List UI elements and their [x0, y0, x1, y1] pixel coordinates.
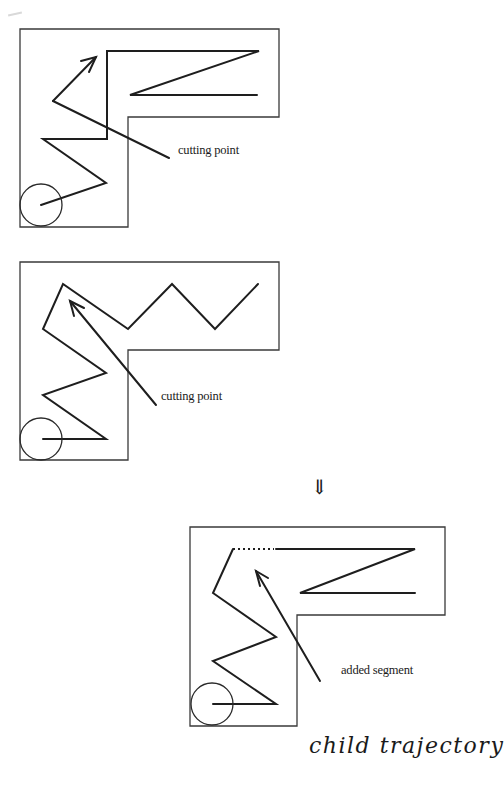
trajectory-path — [213, 549, 276, 704]
cutting-point-leader — [53, 101, 169, 158]
workspace-boundary — [20, 29, 279, 227]
cutting-point-label-1: cutting point — [178, 143, 239, 158]
panel-parent-2 — [20, 262, 279, 460]
added-segment-leader — [256, 571, 320, 681]
workspace-boundary — [190, 527, 445, 726]
trajectory-tail — [276, 549, 415, 593]
trajectory-path — [41, 51, 259, 205]
added-segment-label: added segment — [341, 663, 413, 678]
child-trajectory-caption: child trajectory — [309, 733, 504, 758]
cutting-point-leader — [70, 301, 156, 405]
panel-child — [190, 527, 445, 726]
down-double-arrow-icon: ⇓ — [311, 477, 328, 497]
panel-parent-1 — [20, 29, 279, 227]
trajectory-branch — [53, 57, 96, 101]
cutting-point-label-2: cutting point — [161, 389, 222, 404]
